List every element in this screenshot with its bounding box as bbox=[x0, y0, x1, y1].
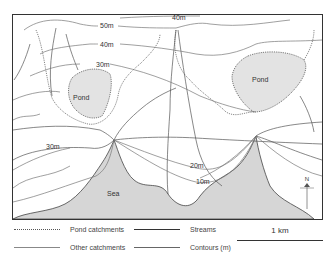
legend-swatch-dark bbox=[134, 229, 180, 230]
svg-text:N: N bbox=[305, 176, 309, 182]
contour-label-30m-top: 30m bbox=[96, 61, 110, 68]
contour-label-40m: 40m bbox=[100, 41, 114, 48]
pond-right bbox=[232, 52, 306, 112]
contour-label-20m: 20m bbox=[190, 162, 204, 169]
legend-streams: Streams bbox=[134, 226, 216, 233]
contour-label-30m-left: 30m bbox=[46, 143, 60, 150]
pond-left-label: Pond bbox=[73, 94, 89, 101]
legend-label: Pond catchments bbox=[70, 226, 124, 233]
legend-swatch-dotted bbox=[14, 229, 60, 230]
legend-other-catchments: Other catchments bbox=[14, 244, 125, 251]
contour-label-10m: 10m bbox=[196, 178, 210, 185]
legend-swatch-mid bbox=[134, 247, 180, 248]
scale-bar bbox=[237, 240, 323, 241]
contour-label-40m-top: 40m bbox=[172, 14, 186, 21]
scale-label: 1 km bbox=[237, 226, 323, 235]
north-arrow-icon: N bbox=[300, 176, 314, 209]
sea-label: Sea bbox=[107, 190, 120, 197]
contour-label-50m: 50m bbox=[100, 22, 114, 29]
legend-label: Streams bbox=[190, 226, 216, 233]
legend-label: Other catchments bbox=[70, 244, 125, 251]
legend-label: Contours (m) bbox=[190, 244, 231, 251]
legend-contours: Contours (m) bbox=[134, 244, 231, 251]
catchment-map: Pond Pond Sea 50m 40m 40m 30m 30m 20m 10… bbox=[0, 0, 336, 262]
legend-swatch-thin bbox=[14, 247, 60, 248]
pond-right-label: Pond bbox=[252, 76, 268, 83]
legend-pond-catchments: Pond catchments bbox=[14, 226, 124, 233]
